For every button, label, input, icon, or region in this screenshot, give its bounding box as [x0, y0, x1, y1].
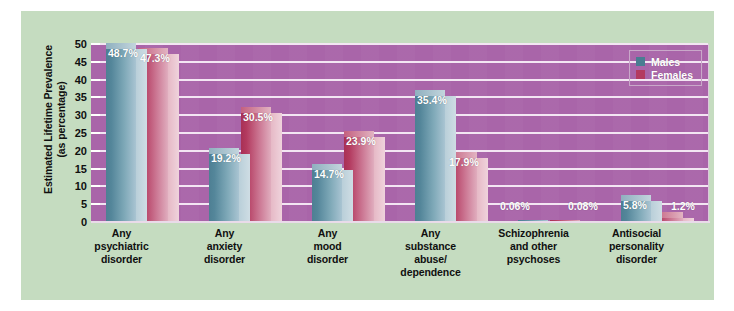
value-label-males-3: 35.4%	[417, 94, 447, 106]
y-tick-label-10: 10	[59, 180, 87, 192]
x-category-label-line: Schizophrenia	[482, 227, 585, 240]
value-label-females-5: 1.2%	[671, 200, 695, 212]
gridline-5	[91, 203, 708, 205]
y-tick-mark-35	[91, 96, 100, 98]
y-tick-mark-10	[91, 185, 100, 187]
value-label-females-0: 47.3%	[140, 52, 170, 64]
legend-item-females: Females	[636, 68, 693, 81]
value-label-females-3: 17.9%	[449, 156, 479, 168]
y-tick-mark-30	[91, 114, 100, 116]
bar-males-0	[106, 49, 136, 222]
legend-label-females: Females	[651, 69, 693, 81]
y-tick-label-40: 40	[59, 74, 87, 86]
x-category-label-line: anxiety	[173, 240, 276, 253]
x-category-label-line: Any	[173, 227, 276, 240]
y-tick-label-20: 20	[59, 145, 87, 157]
value-label-males-1: 19.2%	[211, 152, 241, 164]
x-category-label-line: Any	[379, 227, 482, 240]
y-tick-mark-20	[91, 150, 100, 152]
legend-item-males: Males	[636, 55, 693, 68]
x-category-label-3: Anysubstanceabuse/dependence	[379, 227, 482, 279]
bar-side-panel	[651, 201, 662, 222]
y-tick-label-45: 45	[59, 56, 87, 68]
x-category-label-line: abuse/	[379, 253, 482, 266]
x-category-label-line: disorder	[585, 253, 688, 266]
y-tick-mark-40	[91, 79, 100, 81]
gridline-40	[91, 79, 708, 81]
x-category-label-line: personality	[585, 240, 688, 253]
x-category-label-1: Anyanxietydisorder	[173, 227, 276, 266]
legend-label-males: Males	[651, 56, 680, 68]
value-label-males-0: 48.7%	[108, 47, 138, 59]
x-category-label-line: substance	[379, 240, 482, 253]
y-tick-mark-5	[91, 203, 100, 205]
gridline-20	[91, 150, 708, 152]
gridline-50	[91, 43, 708, 45]
x-category-label-line: Any	[70, 227, 173, 240]
legend-swatch-males-icon	[636, 57, 645, 66]
x-category-label-line: psychoses	[482, 253, 585, 266]
value-label-females-2: 23.9%	[346, 135, 376, 147]
x-category-label-5: Antisocialpersonalitydisorder	[585, 227, 688, 266]
bar-face	[106, 49, 136, 222]
y-axis-title-line-1: Estimated Lifetime Prevalence	[42, 25, 55, 215]
x-category-label-line: and other	[482, 240, 585, 253]
y-tick-label-50: 50	[59, 38, 87, 50]
bar-side-panel	[239, 154, 250, 222]
y-tick-mark-45	[91, 61, 100, 63]
value-label-males-5: 5.8%	[623, 199, 647, 211]
gridline-30	[91, 114, 708, 116]
bar-side-panel	[168, 54, 179, 222]
gridline-15	[91, 168, 708, 170]
bar-males-1	[209, 154, 239, 222]
bar-males-3	[415, 96, 445, 222]
y-axis-tick-labels: 50454035302520151050	[59, 44, 87, 222]
x-category-label-line: mood	[276, 240, 379, 253]
gridline-25	[91, 132, 708, 134]
legend-swatch-females-icon	[636, 70, 645, 79]
y-tick-label-5: 5	[59, 198, 87, 210]
y-tick-label-35: 35	[59, 91, 87, 103]
y-tick-label-25: 25	[59, 127, 87, 139]
bar-face	[415, 96, 445, 222]
gridline-35	[91, 96, 708, 98]
x-category-label-line: Antisocial	[585, 227, 688, 240]
y-tick-label-15: 15	[59, 163, 87, 175]
value-label-females-4: 0.08%	[568, 200, 598, 212]
y-tick-mark-15	[91, 168, 100, 170]
bar-side-panel	[374, 137, 385, 222]
value-label-males-4: 0.06%	[500, 200, 530, 212]
x-category-label-line: disorder	[70, 253, 173, 266]
x-category-label-4: Schizophreniaand otherpsychoses	[482, 227, 585, 266]
value-label-males-2: 14.7%	[314, 168, 344, 180]
gridline-45	[91, 61, 708, 63]
x-category-label-line: psychiatric	[70, 240, 173, 253]
bar-side-panel	[271, 113, 282, 222]
x-category-label-0: Anypsychiatricdisorder	[70, 227, 173, 266]
x-axis-line	[91, 221, 710, 223]
x-category-label-line: disorder	[173, 253, 276, 266]
x-category-label-line: Any	[276, 227, 379, 240]
legend: Males Females	[629, 50, 702, 86]
value-label-females-1: 30.5%	[243, 111, 273, 123]
x-category-label-2: Anymooddisorder	[276, 227, 379, 266]
bar-side-panel	[136, 49, 147, 222]
x-category-label-line: dependence	[379, 266, 482, 279]
chart-card: Estimated Lifetime Prevalence (as percen…	[21, 11, 714, 300]
x-category-label-line: disorder	[276, 253, 379, 266]
bar-face	[209, 154, 239, 222]
y-tick-label-30: 30	[59, 109, 87, 121]
plot-area: 48.7%19.2%14.7%35.4%0.06%5.8%47.3%30.5%2…	[91, 44, 709, 222]
y-tick-mark-50	[91, 43, 100, 45]
chart-figure: Estimated Lifetime Prevalence (as percen…	[0, 0, 734, 311]
gridline-10	[91, 185, 708, 187]
y-tick-mark-25	[91, 132, 100, 134]
